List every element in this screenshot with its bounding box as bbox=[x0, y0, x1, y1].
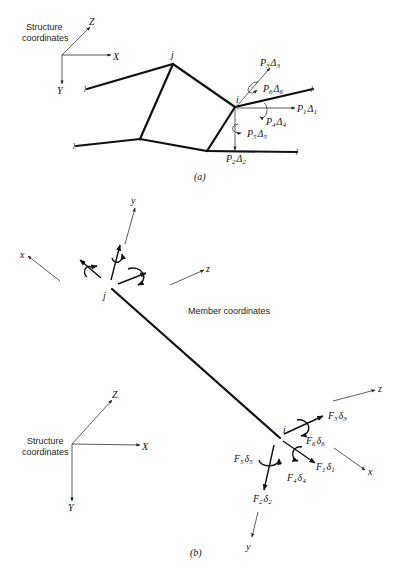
member-x-axis bbox=[28, 256, 60, 281]
axis-z-arrow-b bbox=[72, 400, 112, 444]
force-arrow-f3 bbox=[284, 416, 323, 434]
member-j-diagonal bbox=[140, 64, 173, 139]
member-y-label-i: y bbox=[245, 541, 251, 552]
frame-members bbox=[73, 64, 313, 155]
forces-at-i: F3δ3 F6δ6 F1δ1 F4δ4 F5δ5 F2δ2 bbox=[233, 410, 347, 506]
load-label-p2: P2Δ2 bbox=[225, 153, 246, 166]
load-label-p1: P1Δ1 bbox=[296, 103, 317, 116]
member-z-axis-i bbox=[333, 390, 375, 401]
member-z-axis bbox=[170, 270, 204, 285]
moment-j-x-icon bbox=[85, 266, 97, 277]
force-arrow-j-x bbox=[80, 260, 101, 278]
node-j-label: j bbox=[169, 49, 174, 60]
member-x-label-i: x bbox=[367, 466, 373, 477]
member-y-axis bbox=[125, 208, 135, 244]
member-axes-at-j: y x z bbox=[19, 195, 210, 285]
end-tick bbox=[73, 143, 75, 149]
axes-label-line2: coordinates bbox=[22, 33, 69, 43]
member-y-axis-i bbox=[252, 512, 258, 537]
part-b: y x z j Member coordinates Z X Y Structu… bbox=[19, 195, 382, 559]
member-x-axis-i bbox=[334, 448, 365, 470]
caption-b: (b) bbox=[190, 547, 202, 559]
load-label-p5: P5Δ5 bbox=[246, 128, 267, 141]
force-label-f4: F4δ4 bbox=[286, 472, 306, 485]
force-label-f1: F1δ1 bbox=[315, 461, 335, 474]
member-bottom bbox=[76, 107, 235, 151]
force-label-f5: F5δ5 bbox=[233, 453, 253, 466]
structure-axes-b: Z X Y Structure coordinates bbox=[22, 389, 149, 513]
node-j-label-b: j bbox=[101, 290, 106, 301]
structural-frame-diagram: Z X Y Structure coordinates j i bbox=[0, 0, 405, 577]
axis-z-label: Z bbox=[89, 16, 95, 27]
loads-at-i: P3Δ3 P6Δ6 P1Δ1 P4Δ4 P5Δ5 P2Δ2 bbox=[225, 57, 317, 166]
axes-label-line1: Structure bbox=[26, 22, 63, 32]
load-label-p6: P6Δ6 bbox=[262, 83, 283, 96]
force-arrow-f2 bbox=[264, 445, 274, 490]
axis-z-label-b: Z bbox=[112, 389, 118, 400]
axis-y-label-b: Y bbox=[68, 502, 75, 513]
member-z-label-i: z bbox=[377, 383, 382, 394]
part-a: Z X Y Structure coordinates j i bbox=[22, 16, 317, 183]
member-x-label: x bbox=[19, 249, 25, 260]
member-y-label: y bbox=[130, 195, 136, 206]
force-label-f2: F2δ2 bbox=[252, 493, 272, 506]
load-label-p4: P4Δ4 bbox=[265, 116, 286, 129]
moment-p5-icon bbox=[233, 124, 241, 133]
axes-label-b-line1: Structure bbox=[27, 436, 64, 446]
member-bottom-right bbox=[207, 151, 297, 152]
force-label-f6: F6δ6 bbox=[305, 435, 325, 448]
axis-x-label-b: X bbox=[141, 441, 149, 452]
member-z-label: z bbox=[205, 263, 210, 274]
axes-label-b-line2: coordinates bbox=[22, 447, 69, 457]
force-label-f3: F3δ3 bbox=[327, 410, 347, 423]
node-i-label: i bbox=[236, 94, 239, 105]
caption-a: (a) bbox=[194, 171, 206, 183]
axis-x-label: X bbox=[112, 51, 120, 62]
axis-y-label: Y bbox=[57, 85, 64, 96]
member-top bbox=[87, 64, 235, 107]
member-coordinates-label: Member coordinates bbox=[188, 306, 271, 316]
end-tick bbox=[84, 86, 86, 92]
axis-x-arrow-b bbox=[72, 444, 140, 445]
